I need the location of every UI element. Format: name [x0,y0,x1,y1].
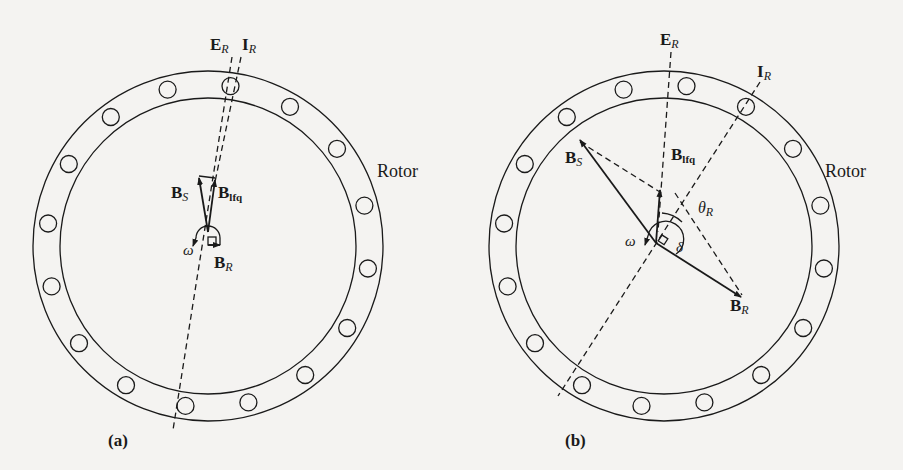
svg-text:IR: IR [757,62,772,83]
rotor-outer-ring [33,71,383,421]
caption-b: (b) [565,431,586,450]
figure-a-labels: ER IR BS Blfq BR ω Rotor (a) [108,35,418,450]
svg-text:BS: BS [565,148,582,169]
rotor-slot [696,394,713,411]
rotor-slot [339,320,356,337]
rotor-slot [102,109,119,126]
er-axis [173,57,232,430]
svg-text:ω: ω [183,242,194,258]
svg-text:Blfq: Blfq [671,145,696,165]
rotor-slots [40,78,377,415]
rotor-slot [678,78,695,95]
rotor-slot [574,377,591,394]
rotor-slot [359,260,376,277]
bs-vector [199,178,208,232]
rotor-slot [329,140,346,157]
rotor-slot [60,156,77,173]
rotor-slot [615,81,632,98]
bs-dashed [580,142,660,192]
rotor-slot [282,98,299,115]
bs-vector [580,140,656,243]
figure-b [489,52,839,421]
rotor-slot [159,81,176,98]
svg-text:ER: ER [210,35,229,56]
svg-text:BR: BR [214,253,233,274]
figure-a [33,57,383,430]
rotor-slot [499,278,516,295]
rotor-outer-ring [489,71,839,421]
svg-text:ER: ER [660,30,679,51]
svg-text:δ: δ [676,239,684,255]
rotor-inner-ring [60,98,356,394]
rotor-slot [558,109,575,126]
caption-a: (a) [108,431,128,450]
rotor-slot [812,197,829,214]
rotor-slot [753,367,770,384]
rotor-slot [118,377,135,394]
rotor-slot [516,156,533,173]
rotor-slot [40,215,57,232]
rotor-slot [815,260,832,277]
rotor-slot [496,215,513,232]
svg-text:θR: θR [698,199,714,219]
rotor-slots [496,78,833,415]
figure-b-labels: ER IR BS Blfq θR δ ω BR Rotor (b) [565,30,866,450]
rotor-slot [738,98,755,115]
ir-axis [215,57,241,182]
rotor-slot [240,394,257,411]
rotor-slot [297,367,314,384]
svg-text:ω: ω [625,233,636,249]
rotor-diagrams: ER IR BS Blfq BR ω Rotor (a) ER IR BS Bl… [0,0,903,470]
rotor-label-a: Rotor [377,161,418,181]
rotor-slot [527,335,544,352]
svg-text:Blfq: Blfq [218,183,243,203]
svg-text:BS: BS [171,183,188,204]
svg-text:BR: BR [730,296,749,317]
svg-text:IR: IR [242,35,257,56]
rotor-slot [43,278,60,295]
br-vector [656,243,741,297]
rotor-slot [356,197,373,214]
rotor-label-b: Rotor [825,161,866,181]
rotor-slot [633,397,650,414]
er-axis [658,52,671,232]
rotor-slot [71,335,88,352]
rotor-slot [177,397,194,414]
rotor-slot [785,140,802,157]
rotor-slot [795,320,812,337]
